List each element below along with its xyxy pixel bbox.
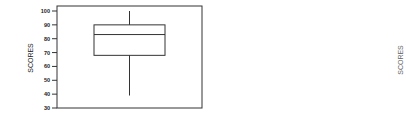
- box-plot-svg: 10090807060504030 SCORES SCORES: [0, 0, 406, 122]
- interquartile-box: [94, 25, 165, 55]
- box-element: [94, 11, 165, 96]
- y-axis-label: SCORES: [27, 43, 34, 73]
- secondary-y-axis-label: SCORES: [397, 45, 404, 75]
- y-tick-label: 60: [44, 63, 50, 69]
- y-tick-label: 90: [44, 22, 50, 28]
- y-tick-label: 80: [44, 36, 50, 42]
- y-axis-ticks: 10090807060504030: [41, 8, 57, 111]
- y-tick-label: 50: [44, 77, 50, 83]
- box-plot-chart: 10090807060504030 SCORES SCORES: [0, 0, 406, 122]
- y-tick-label: 30: [44, 105, 50, 111]
- y-tick-label: 40: [44, 91, 50, 97]
- y-tick-label: 70: [44, 50, 50, 56]
- y-tick-label: 100: [41, 8, 50, 14]
